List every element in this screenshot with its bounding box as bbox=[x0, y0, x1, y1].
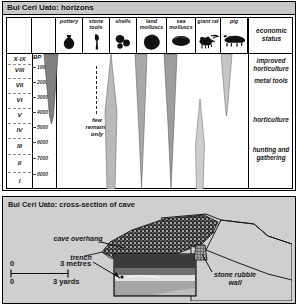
bar-pig bbox=[219, 54, 235, 116]
trench-section bbox=[114, 254, 196, 296]
header-col-stone-tools: stone tools bbox=[83, 18, 110, 53]
cross-section-title: Bui Ceri Uato: cross-section of cave bbox=[8, 200, 135, 209]
horizon-separator bbox=[8, 108, 31, 109]
figure-page: Bui Ceri Uato: horizons pottery stone to… bbox=[0, 0, 299, 307]
bar-stone-tools-dashed bbox=[96, 66, 97, 114]
horizon-label-i: I bbox=[7, 177, 32, 184]
sea-mollusc-icon bbox=[167, 34, 195, 51]
horizons-title: Bui Ceri Uato: horizons bbox=[7, 3, 94, 12]
header-label-shells: shells bbox=[110, 19, 136, 25]
header-cell-axis bbox=[32, 18, 56, 53]
pig-icon bbox=[221, 34, 247, 51]
header-label-land-molluscs: land molluscs bbox=[137, 19, 166, 30]
horizon-label-x-ix: X-IX bbox=[7, 55, 32, 62]
axis-tick bbox=[32, 174, 36, 175]
header-label-giant-rat: giant rat bbox=[196, 19, 220, 25]
header-col-economic-status: economic status bbox=[248, 18, 294, 53]
axis-tick bbox=[32, 67, 36, 68]
column-header-row: pottery stone tools bbox=[7, 18, 292, 54]
horizon-separator bbox=[8, 172, 31, 173]
shells-icon bbox=[110, 34, 136, 51]
cave-cross-section-diagram bbox=[6, 210, 292, 301]
label-stone-rubble-wall: stone rubble wall bbox=[199, 271, 271, 287]
economic-status-column: improved horticulture metal tools hortic… bbox=[248, 54, 294, 189]
axis-tick-label-5000: 5000 bbox=[37, 124, 48, 130]
horizon-separator bbox=[8, 78, 31, 79]
cross-section-panel: Bui Ceri Uato: cross-section of cave bbox=[2, 196, 296, 304]
horizon-label-vii: VII bbox=[7, 81, 32, 88]
label-line-1: stone rubble bbox=[199, 271, 271, 279]
bar-giant-rat bbox=[192, 99, 208, 189]
status-line-1: improved bbox=[248, 57, 294, 65]
land-mollusc-icon bbox=[137, 34, 166, 51]
axis-tick-label-6000: 6000 bbox=[37, 139, 48, 145]
axis-tick bbox=[32, 158, 36, 159]
header-cell-horizon bbox=[7, 18, 32, 53]
stone-rubble-wall bbox=[194, 245, 207, 260]
pottery-vessel-icon bbox=[56, 34, 82, 51]
header-col-sea-molluscs: sea molluscs bbox=[167, 18, 196, 53]
abundance-plot: few remains only bbox=[56, 54, 245, 189]
horizon-column: X-IX VIII VII VI V IV III II I bbox=[7, 54, 32, 189]
stone-tool-icon bbox=[83, 34, 109, 51]
horizon-separator bbox=[8, 138, 31, 139]
economic-status-metal-tools: metal tools bbox=[248, 77, 294, 85]
scale-yards-zero: 0 bbox=[10, 277, 14, 286]
horizon-label-v: V bbox=[7, 111, 32, 118]
axis-tick-label-8000: 8000 bbox=[37, 171, 48, 177]
label-line-2: wall bbox=[199, 279, 271, 287]
axis-tick bbox=[32, 127, 36, 128]
bar-pottery bbox=[43, 54, 59, 124]
header-label-economic-status: economic status bbox=[249, 27, 294, 43]
axis-tick bbox=[32, 142, 36, 143]
axis-tick bbox=[32, 97, 36, 98]
label-cave-overhang: cave overhang bbox=[41, 235, 115, 243]
giant-rat-icon bbox=[196, 34, 220, 51]
axis-tick bbox=[32, 82, 36, 83]
scale-metres-zero: 0 bbox=[10, 259, 14, 268]
header-label-stone-tools: stone tools bbox=[83, 19, 109, 30]
status-line-1: hunting and bbox=[248, 146, 294, 154]
header-label-pig: pig bbox=[221, 19, 247, 25]
horizon-separator bbox=[8, 93, 31, 94]
header-label-sea-molluscs: sea molluscs bbox=[167, 19, 195, 30]
bar-land-molluscs bbox=[132, 54, 150, 189]
bar-sea-molluscs bbox=[162, 54, 180, 189]
axis-tick-label-7000: 7000 bbox=[37, 155, 48, 161]
horizons-grid: pottery stone tools bbox=[6, 17, 293, 189]
horizon-separator bbox=[8, 64, 31, 65]
scale-metres-max: 3 metres bbox=[60, 259, 91, 268]
horizon-separator bbox=[8, 123, 31, 124]
economic-status-improved-horticulture: improved horticulture bbox=[248, 57, 294, 73]
horizons-title-bar: Bui Ceri Uato: horizons bbox=[3, 2, 295, 15]
axis-tick bbox=[32, 112, 36, 113]
economic-status-horticulture: horticulture bbox=[248, 116, 294, 124]
horizon-label-viii: VIII bbox=[7, 66, 32, 73]
header-col-shells: shells bbox=[110, 18, 137, 53]
horizon-label-vi: VI bbox=[7, 96, 32, 103]
horizon-label-ii: II bbox=[7, 159, 32, 166]
bar-shells bbox=[103, 54, 119, 189]
horizon-separator bbox=[8, 154, 31, 155]
horizon-label-iii: III bbox=[7, 142, 32, 149]
status-line-2: horticulture bbox=[248, 65, 294, 73]
economic-status-hunting-gathering: hunting and gathering bbox=[248, 146, 294, 162]
header-col-giant-rat: giant rat bbox=[196, 18, 221, 53]
header-label-pottery: pottery bbox=[56, 19, 82, 25]
header-col-pig: pig bbox=[221, 18, 248, 53]
horizons-panel: Bui Ceri Uato: horizons pottery stone to… bbox=[2, 1, 296, 191]
status-line-2: gathering bbox=[248, 154, 294, 162]
header-col-land-molluscs: land molluscs bbox=[137, 18, 167, 53]
header-col-pottery: pottery bbox=[56, 18, 83, 53]
horizons-body: X-IX VIII VII VI V IV III II I bbox=[7, 54, 292, 189]
bp-axis-title: BP bbox=[33, 54, 41, 60]
horizon-label-iv: IV bbox=[7, 126, 32, 133]
scale-yards-max: 3 yards bbox=[53, 277, 80, 286]
